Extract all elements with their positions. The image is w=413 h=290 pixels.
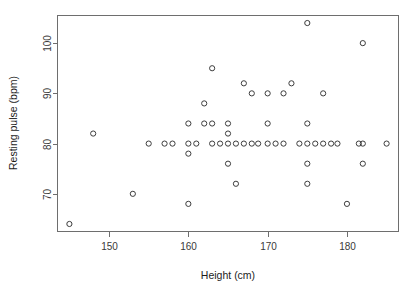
data-point xyxy=(344,201,349,206)
data-point xyxy=(186,121,191,126)
data-point xyxy=(305,121,310,126)
data-point xyxy=(305,20,310,25)
data-point xyxy=(297,141,302,146)
data-point xyxy=(67,221,72,226)
data-point xyxy=(170,141,175,146)
x-axis-ticks: 150160170180 xyxy=(101,232,356,252)
plot-canvas: 150160170180 708090100 Height (cm) Resti… xyxy=(0,0,413,290)
data-point xyxy=(91,131,96,136)
data-point xyxy=(273,141,278,146)
data-point xyxy=(321,91,326,96)
data-point xyxy=(289,81,294,86)
data-point xyxy=(233,181,238,186)
x-axis-title: Height (cm) xyxy=(201,269,255,281)
data-point xyxy=(384,141,389,146)
data-point xyxy=(202,101,207,106)
data-point xyxy=(305,161,310,166)
data-point xyxy=(225,121,230,126)
data-point xyxy=(313,141,318,146)
data-point xyxy=(210,141,215,146)
plot-frame xyxy=(58,16,399,232)
data-point xyxy=(265,141,270,146)
data-point xyxy=(241,81,246,86)
data-point xyxy=(328,141,333,146)
data-point xyxy=(249,91,254,96)
data-point xyxy=(210,121,215,126)
data-point xyxy=(146,141,151,146)
scatter-plot-figure: 150160170180 708090100 Height (cm) Resti… xyxy=(0,0,413,290)
data-point xyxy=(225,131,230,136)
data-point xyxy=(186,151,191,156)
data-point xyxy=(225,161,230,166)
data-point xyxy=(281,141,286,146)
x-tick-label: 160 xyxy=(180,241,197,252)
data-point xyxy=(233,141,238,146)
data-points-layer xyxy=(67,20,389,226)
data-point xyxy=(281,91,286,96)
data-point xyxy=(225,141,230,146)
data-point xyxy=(256,141,261,146)
y-axis-ticks: 708090100 xyxy=(42,35,58,200)
y-tick-label: 100 xyxy=(42,35,53,52)
data-point xyxy=(305,141,310,146)
data-point xyxy=(217,141,222,146)
y-tick-label: 80 xyxy=(42,139,53,151)
y-tick-label: 70 xyxy=(42,189,53,201)
data-point xyxy=(360,41,365,46)
x-tick-label: 150 xyxy=(101,241,118,252)
data-point xyxy=(186,141,191,146)
x-tick-label: 170 xyxy=(260,241,277,252)
data-point xyxy=(265,91,270,96)
data-point xyxy=(202,121,207,126)
data-point xyxy=(241,141,246,146)
data-point xyxy=(335,141,340,146)
x-tick-label: 180 xyxy=(339,241,356,252)
plot-box xyxy=(58,16,399,232)
data-point xyxy=(360,161,365,166)
data-point xyxy=(162,141,167,146)
data-point xyxy=(130,191,135,196)
y-tick-label: 90 xyxy=(42,88,53,100)
data-point xyxy=(186,201,191,206)
data-point xyxy=(265,121,270,126)
data-point xyxy=(194,141,199,146)
data-point xyxy=(305,181,310,186)
data-point xyxy=(249,141,254,146)
y-axis-title: Resting pulse (bpm) xyxy=(7,76,19,170)
data-point xyxy=(210,66,215,71)
data-point xyxy=(321,141,326,146)
